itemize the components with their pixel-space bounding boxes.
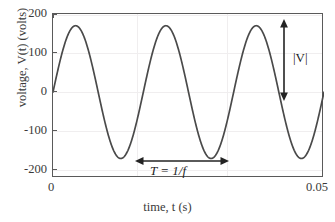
x-axis-label: time, t (s) (0, 200, 335, 215)
y-tick-mark--200 (52, 169, 57, 170)
x-tick-label-0: 0 (48, 181, 54, 194)
x-tick-mark-0.05 (322, 13, 323, 18)
x-tick-mark-0 (53, 13, 54, 18)
y-tick-label-200: 200 (19, 7, 47, 20)
y-tick-label--100: -100 (14, 124, 47, 137)
y-tick-label-100: 100 (19, 46, 47, 59)
x-tick-label-0.05: 0.05 (306, 181, 328, 194)
y-tick-label-0: 0 (19, 85, 47, 98)
period-annotation-label: T = 1/f (150, 164, 186, 177)
y-tick-mark--100 (52, 130, 57, 131)
y-tick-mark-0 (52, 91, 57, 92)
chart-figure: voltage, V(t) (volts) 200 100 0 -100 -20… (0, 0, 335, 222)
amplitude-annotation-label: |V| (293, 51, 308, 64)
y-tick-label--200: -200 (14, 163, 47, 176)
y-axis-label: voltage, V(t) (volts) (15, 0, 30, 138)
y-tick-mark-100 (52, 52, 57, 53)
plot-area (52, 13, 323, 177)
